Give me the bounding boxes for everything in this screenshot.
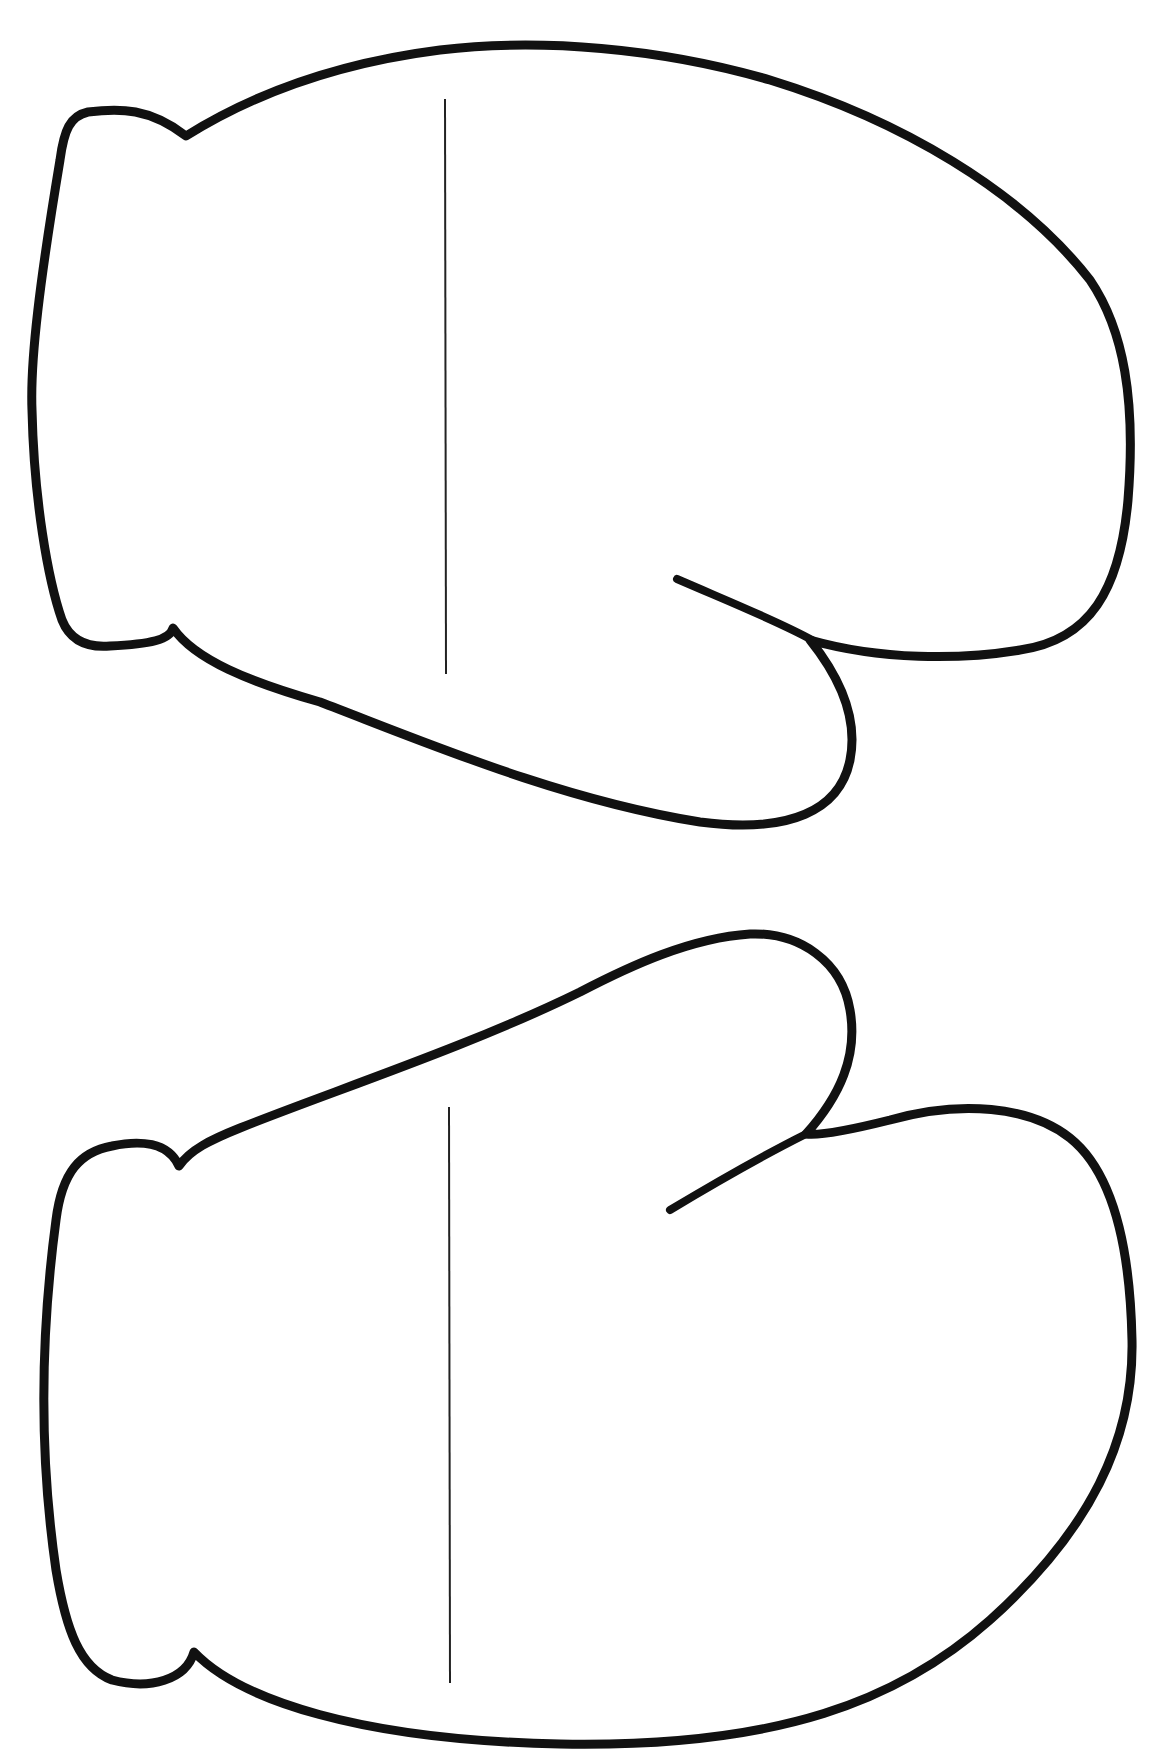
mitten-bottom-fold-line (449, 1107, 450, 1683)
mitten-top (32, 45, 1131, 825)
mitten-bottom-outline (44, 934, 1132, 1744)
mitten-sheet (0, 0, 1167, 1754)
mitten-template-page (0, 0, 1167, 1754)
mitten-top-outline (32, 45, 1131, 825)
mitten-bottom (44, 934, 1132, 1744)
mitten-top-fold-line (445, 99, 446, 674)
